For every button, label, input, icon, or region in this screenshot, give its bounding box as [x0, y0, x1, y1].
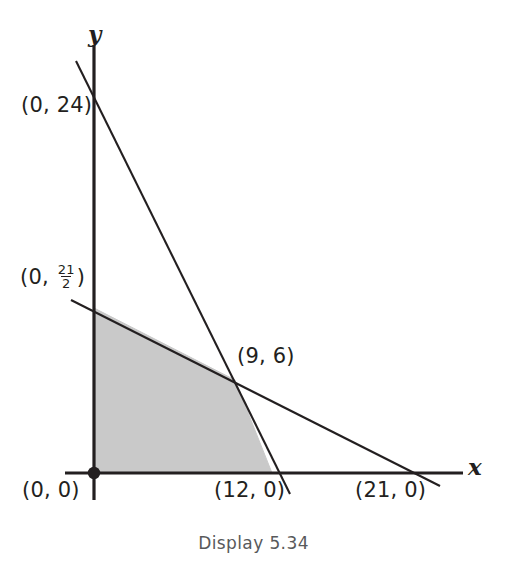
point-label-21-0: (21, 0): [355, 480, 426, 501]
point-label-0-0: (0, 0): [22, 480, 80, 501]
fraction-denominator: 2: [61, 276, 71, 290]
x-axis-label: x: [468, 455, 482, 478]
point-label-0-21-over-2: (0, 212): [20, 264, 85, 292]
origin-point-marker: [88, 467, 100, 479]
fraction-numerator: 21: [57, 263, 76, 276]
point-label-9-6: (9, 6): [237, 346, 295, 367]
point-label-suffix: ): [77, 265, 85, 289]
shaded-feasible-region: [94, 308, 272, 473]
point-label-12-0: (12, 0): [214, 480, 285, 501]
y-axis-label: y: [88, 22, 101, 45]
fraction-21-over-2: 212: [57, 263, 76, 291]
point-label-0-24: (0, 24): [21, 95, 92, 116]
figure-page: y x (0, 24) (0, 212) (9, 6) (0, 0) (12, …: [0, 0, 507, 580]
point-label-prefix: (0,: [20, 265, 56, 289]
figure-caption: Display 5.34: [0, 533, 507, 553]
